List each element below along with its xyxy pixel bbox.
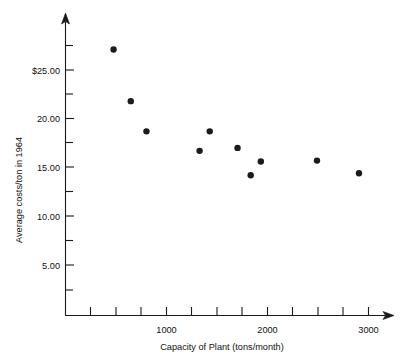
plot-svg: $25.00 20.00 15.00 10.00 5.00 1000 2000 … bbox=[0, 0, 406, 356]
data-points-group bbox=[110, 46, 362, 178]
y-tick-label-5: 5.00 bbox=[42, 261, 60, 271]
y-major-ticks bbox=[65, 70, 74, 265]
data-point bbox=[196, 148, 202, 154]
scatter-chart-figure: $25.00 20.00 15.00 10.00 5.00 1000 2000 … bbox=[0, 0, 406, 356]
data-point bbox=[248, 172, 254, 178]
data-point bbox=[110, 46, 116, 52]
data-point bbox=[314, 157, 320, 163]
x-tick-label-1000: 1000 bbox=[156, 325, 176, 335]
data-point bbox=[143, 128, 149, 134]
data-point bbox=[258, 158, 264, 164]
x-axis-title: Capacity of Plant (tons/month) bbox=[160, 342, 284, 352]
data-point bbox=[128, 98, 134, 104]
data-point bbox=[234, 145, 240, 151]
x-tick-labels: 1000 2000 3000 bbox=[156, 325, 378, 335]
y-minor-ticks bbox=[65, 46, 73, 291]
y-tick-labels: $25.00 20.00 15.00 10.00 5.00 bbox=[32, 66, 60, 271]
y-tick-label-25: $25.00 bbox=[32, 66, 60, 76]
y-axis bbox=[62, 13, 70, 316]
data-point bbox=[207, 128, 213, 134]
y-axis-title: Average costs/ton in 1964 bbox=[14, 137, 24, 243]
y-tick-label-10: 10.00 bbox=[37, 212, 60, 222]
x-axis bbox=[65, 312, 394, 320]
x-tick-label-2000: 2000 bbox=[257, 325, 277, 335]
x-ticks bbox=[91, 307, 369, 316]
x-tick-label-3000: 3000 bbox=[358, 325, 378, 335]
y-tick-label-20: 20.00 bbox=[37, 114, 60, 124]
y-tick-label-15: 15.00 bbox=[37, 163, 60, 173]
data-point bbox=[356, 170, 362, 176]
